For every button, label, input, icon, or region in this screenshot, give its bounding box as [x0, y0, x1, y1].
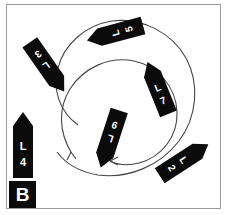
marker-l3[interactable]: L 3 [22, 37, 71, 96]
panel-letter-badge: B [9, 181, 36, 208]
marker-l4[interactable]: L 4 [13, 112, 33, 178]
spiral-outer-path [56, 20, 195, 175]
spiral-path-group [56, 20, 195, 175]
marker-l2[interactable]: L 2 [155, 137, 213, 184]
figure-panel-b: L 4 L 3 L 5 L 7 L 2 L 9 B [0, 0, 227, 215]
marker-label-bottom: 4 [20, 156, 27, 168]
spiral-arrowhead-left [67, 152, 76, 160]
panel-letter-label: B [16, 185, 30, 204]
marker-l5[interactable]: L 5 [85, 17, 146, 49]
marker-l7[interactable]: L 7 [139, 59, 177, 118]
marker-label-top: L [20, 140, 27, 152]
